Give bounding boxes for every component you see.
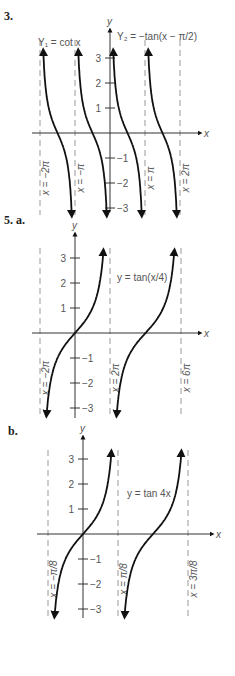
y-tick-label: 2 [95,78,101,89]
x-axis-label: x [203,328,210,339]
graph-5a: x = −2πx = 2πx = 6πxy321−1−2−3y = tan(x/… [32,220,210,418]
graph-5b: x = −π/8x = π/8x = 3π/8xy321−1−2−3y = ta… [37,423,222,618]
y-tick-label: −3 [117,203,129,214]
y-tick-label: −3 [90,604,102,615]
y-tick-label: 3 [60,253,66,264]
y-axis-label: y [106,16,113,27]
problem-number: 3. [4,9,13,23]
problem-number: b. [8,424,18,438]
equation-label: Y₂ = −tan(x − π/2) [117,31,197,42]
asymptote-label: x = 2π [180,163,191,193]
y-axis-label: y [71,220,78,231]
asymptote-label: x = −π [75,163,86,193]
x-axis-label: x [203,128,210,139]
problem-labels: 3. 5. a.b. [4,9,25,438]
y-tick-label: 1 [60,303,66,314]
y-axis-label: y [79,423,86,434]
y-tick-label: 3 [95,53,101,64]
asymptote-label: x = −2π [40,160,51,196]
y-tick-label: −1 [90,554,102,565]
graphs: x = −2πx = −πx = πx = 2πxy321−1−2−3Y₁ = … [32,16,222,618]
equation-label: y = tan 4x [127,488,171,499]
y-tick-label: −3 [82,403,94,414]
equation-label: y = tan(x/4) [117,272,167,283]
x-axis-label: x [215,529,222,540]
y-tick-label: 1 [68,504,74,515]
y-tick-label: −2 [90,579,102,590]
asymptote-label: x = 3π/8 [188,560,199,598]
problem-number: 5. a. [4,213,25,227]
y-tick-label: −1 [82,353,94,364]
y-tick-label: 1 [95,103,101,114]
asymptote-label: x = 6π [181,363,192,393]
y-tick-label: 2 [68,479,74,490]
asymptote-label: x = π [145,166,156,190]
y-tick-label: 3 [68,454,74,465]
equation-label: Y₁ = cot x [38,37,81,48]
graph-canvas: 3. 5. a.b. x = −2πx = −πx = πx = 2πxy321… [0,0,235,676]
graph-3: x = −2πx = −πx = πx = 2πxy321−1−2−3Y₁ = … [32,16,210,215]
y-tick-label: −2 [117,178,129,189]
y-tick-label: −1 [117,153,129,164]
y-tick-label: −2 [82,378,94,389]
y-tick-label: 2 [60,278,66,289]
